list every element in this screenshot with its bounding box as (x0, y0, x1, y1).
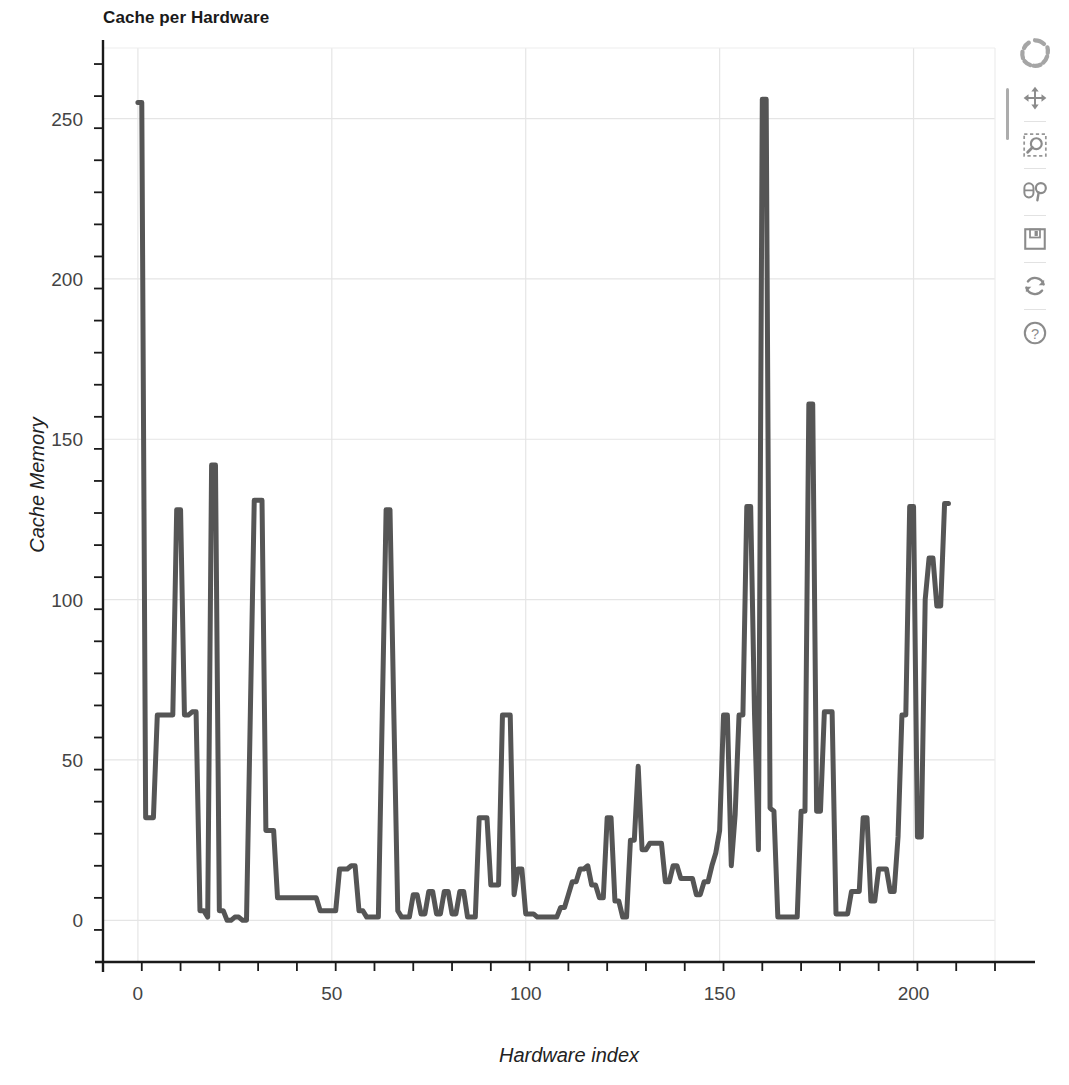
floppy-disk-icon (1022, 226, 1048, 252)
box-zoom-icon (1022, 132, 1048, 158)
plot-toolbar[interactable]: ? (1007, 36, 1063, 355)
wheel-zoom-icon (1022, 179, 1048, 205)
axis-titles: Hardware indexCache Memory (26, 416, 640, 1066)
svg-text:250: 250 (51, 109, 83, 130)
bokeh-plot-root: Cache per Hardware 050100150200250050100… (0, 0, 1069, 1085)
chart-canvas[interactable]: 050100150200250050100150200 Hardware ind… (0, 0, 1069, 1085)
svg-text:?: ? (1031, 326, 1039, 342)
refresh-icon (1022, 273, 1048, 299)
svg-text:0: 0 (133, 983, 144, 1004)
reset-tool[interactable] (1013, 264, 1057, 308)
save-tool[interactable] (1013, 217, 1057, 261)
svg-text:Cache Memory: Cache Memory (26, 416, 48, 553)
svg-text:Hardware index: Hardware index (499, 1044, 640, 1066)
move-arrows-icon (1022, 85, 1048, 111)
bokeh-logo-icon (1018, 36, 1052, 70)
toolbar-divider (1024, 215, 1046, 216)
box-zoom-tool[interactable] (1013, 123, 1057, 167)
svg-text:50: 50 (321, 983, 342, 1004)
help-tool[interactable]: ? (1013, 311, 1057, 355)
svg-text:100: 100 (51, 590, 83, 611)
axis-ticks (94, 40, 1035, 972)
svg-text:150: 150 (51, 429, 83, 450)
toolbar-divider (1024, 168, 1046, 169)
pan-tool[interactable] (1013, 76, 1057, 120)
svg-text:200: 200 (898, 983, 930, 1004)
data-series-line[interactable] (138, 99, 949, 920)
question-circle-icon: ? (1022, 320, 1048, 346)
wheel-zoom-tool[interactable] (1013, 170, 1057, 214)
svg-text:200: 200 (51, 269, 83, 290)
toolbar-divider (1024, 309, 1046, 310)
svg-text:50: 50 (62, 750, 83, 771)
svg-text:0: 0 (72, 910, 83, 931)
svg-text:150: 150 (704, 983, 736, 1004)
toolbar-divider (1024, 262, 1046, 263)
svg-text:100: 100 (510, 983, 542, 1004)
toolbar-divider (1024, 121, 1046, 122)
